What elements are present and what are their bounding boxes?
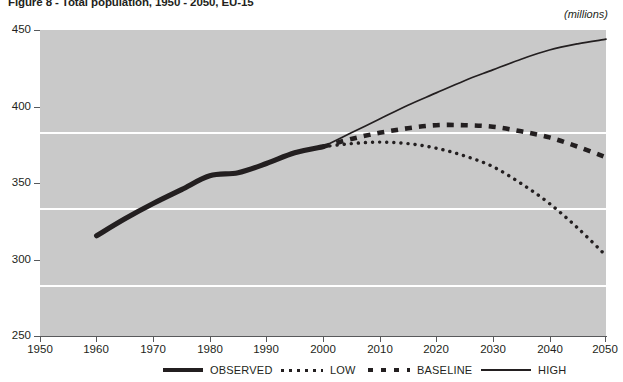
xtick-2000	[323, 337, 324, 342]
legend-item-high: HIGH	[481, 362, 566, 378]
ytick-450	[34, 30, 40, 31]
ytick-label-350: 350	[0, 176, 31, 188]
legend-swatch-high-icon	[481, 369, 531, 371]
ytick-label-450: 450	[0, 23, 31, 35]
ytick-400	[34, 107, 40, 108]
chart-legend: OBSERVED LOW BASELINE HIGH	[0, 362, 614, 380]
xtick-1990	[266, 337, 267, 342]
figure-title: Figure 8 - Total population, 1950 - 2050…	[8, 0, 254, 8]
plot-area	[40, 30, 606, 337]
series-high-line	[323, 39, 606, 147]
legend-label-observed: OBSERVED	[210, 364, 273, 376]
xtick-2020	[436, 337, 437, 342]
xtick-1970	[153, 337, 154, 342]
legend-item-observed: OBSERVED	[163, 362, 273, 378]
legend-label-high: HIGH	[538, 364, 566, 376]
ytick-300	[34, 260, 40, 261]
series-observed-line	[97, 147, 323, 236]
xtick-label-1950: 1950	[17, 343, 63, 355]
xtick-label-1990: 1990	[243, 343, 289, 355]
series-low-line	[323, 142, 606, 256]
ytick-label-250: 250	[0, 329, 31, 341]
xtick-2010	[380, 337, 381, 342]
xtick-label-2000: 2000	[300, 343, 346, 355]
xtick-label-1960: 1960	[73, 343, 119, 355]
xtick-1950	[40, 337, 41, 342]
xtick-2050	[605, 337, 606, 342]
xtick-label-2030: 2030	[470, 343, 516, 355]
xtick-label-1980: 1980	[187, 343, 233, 355]
legend-swatch-baseline-icon	[368, 368, 410, 372]
legend-label-baseline: BASELINE	[417, 364, 472, 376]
xtick-label-1970: 1970	[130, 343, 176, 355]
legend-label-low: LOW	[330, 364, 356, 376]
units-label: (millions)	[564, 8, 608, 20]
xtick-1960	[96, 337, 97, 342]
legend-item-baseline: BASELINE	[368, 362, 472, 378]
xtick-label-2020: 2020	[413, 343, 459, 355]
legend-swatch-observed-icon	[163, 368, 203, 372]
series-layer	[40, 30, 606, 337]
legend-swatch-low-icon	[281, 369, 323, 372]
ytick-350	[34, 183, 40, 184]
xtick-label-2040: 2040	[527, 343, 573, 355]
legend-item-low: LOW	[281, 362, 356, 378]
xtick-label-2050: 2050	[582, 343, 623, 355]
xtick-2040	[550, 337, 551, 342]
ytick-label-300: 300	[0, 253, 31, 265]
xtick-2030	[493, 337, 494, 342]
ytick-label-400: 400	[0, 100, 31, 112]
xtick-label-2010: 2010	[357, 343, 403, 355]
xtick-1980	[210, 337, 211, 342]
